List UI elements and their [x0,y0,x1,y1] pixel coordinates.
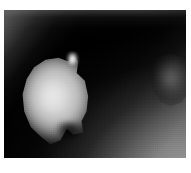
grayscale-image-plate [4,10,186,158]
secondary-blob-core-region [158,64,184,96]
image-viewport [0,0,191,173]
primary-blob-spike-region [66,52,79,69]
primary-blob-notch-region [56,122,82,142]
primary-blob-core-region [30,72,80,128]
